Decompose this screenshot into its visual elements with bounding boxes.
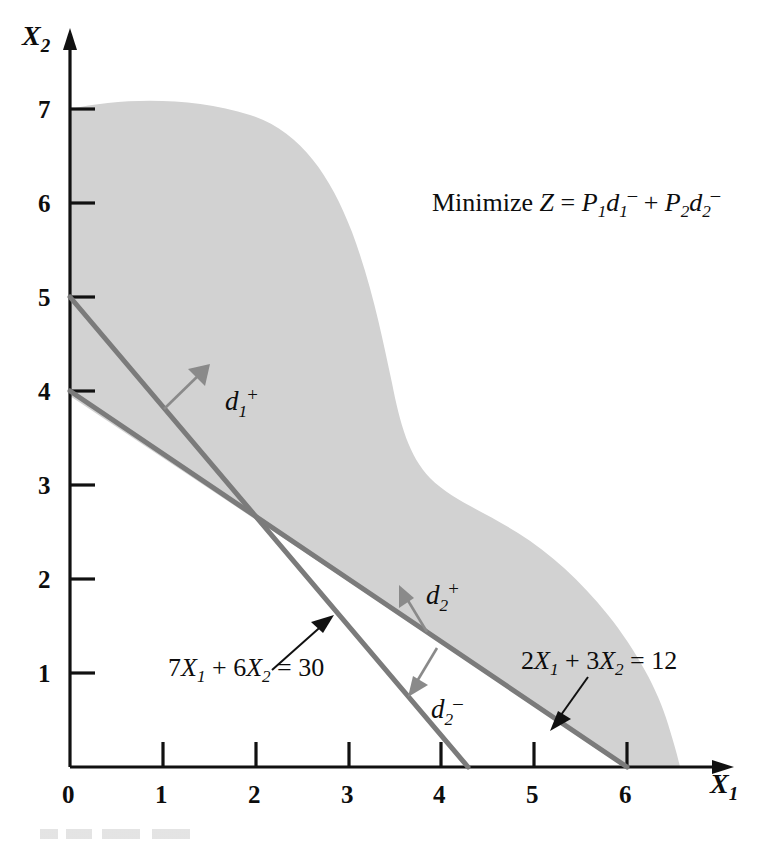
deviation-label-d2-plus: d2+ xyxy=(426,580,459,614)
constraint-label-goal-2: 2X1 + 3X2 = 12 xyxy=(521,648,677,678)
x-tick-label-5: 5 xyxy=(526,782,539,807)
y-tick-label-5: 5 xyxy=(38,285,51,310)
y-tick-label-1: 1 xyxy=(38,661,51,686)
deviation-label-d2-minus: d2– xyxy=(431,694,463,728)
plot-canvas xyxy=(0,0,760,841)
y-tick-label-6: 6 xyxy=(38,191,51,216)
cutoff-caption-strip xyxy=(40,829,190,839)
y-axis-label: X2 xyxy=(22,22,50,55)
x-tick-label-6: 6 xyxy=(619,782,632,807)
y-tick-label-4: 4 xyxy=(38,379,51,404)
goal-programming-figure: X2 X1 7 6 5 4 3 2 1 0 1 2 3 4 5 6 Minimi… xyxy=(0,0,760,841)
x-tick-label-3: 3 xyxy=(341,782,354,807)
x-tick-label-2: 2 xyxy=(248,782,261,807)
y-tick-label-7: 7 xyxy=(38,97,51,122)
x-tick-label-1: 1 xyxy=(155,782,168,807)
x-axis-label: X1 xyxy=(710,770,738,803)
x-tick-label-4: 4 xyxy=(433,782,446,807)
y-tick-label-2: 2 xyxy=(38,567,51,592)
y-axis-arrowhead xyxy=(63,28,77,50)
deviation-label-d1-plus: d1+ xyxy=(225,386,258,420)
deviation-arrow-d2-minus xyxy=(408,648,437,697)
y-tick-label-3: 3 xyxy=(38,473,51,498)
objective-function-label: Minimize Z = P1d1– + P2d2– xyxy=(432,186,720,220)
constraint-label-goal-1: 7X1 + 6X2 = 30 xyxy=(168,655,324,685)
x-tick-label-0: 0 xyxy=(62,782,75,807)
